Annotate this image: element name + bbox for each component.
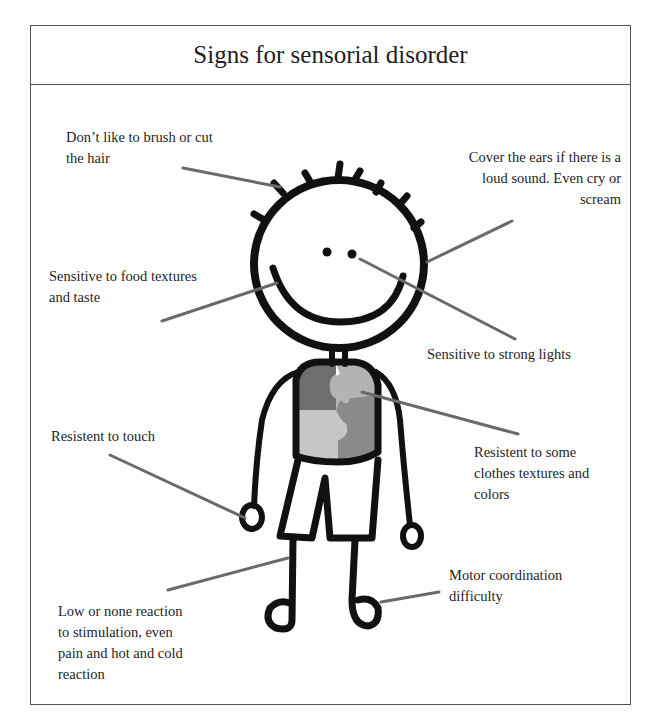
leader-line-hair bbox=[183, 168, 280, 187]
leader-line-ears bbox=[427, 221, 512, 262]
label-hair: Don’t like to brush or cut the hair bbox=[66, 127, 213, 169]
left-eye-icon bbox=[323, 248, 332, 257]
leader-line-clothes bbox=[362, 392, 518, 434]
leader-line-stimulation bbox=[168, 558, 288, 590]
hair-icon bbox=[254, 164, 421, 228]
puzzle-shirt bbox=[296, 364, 376, 460]
label-food: Sensitive to food textures and taste bbox=[49, 266, 197, 308]
leader-line-motor bbox=[381, 592, 439, 602]
leader-line-lights bbox=[360, 259, 515, 339]
right-leg-icon bbox=[352, 540, 378, 626]
right-eye-icon bbox=[348, 250, 357, 259]
shorts-icon bbox=[280, 460, 378, 538]
leader-line-touch bbox=[110, 455, 245, 518]
left-leg-icon bbox=[268, 540, 293, 629]
label-clothes: Resistent to some clothes textures and c… bbox=[474, 442, 589, 505]
label-lights: Sensitive to strong lights bbox=[427, 344, 571, 365]
label-ears: Cover the ears if there is a loud sound.… bbox=[469, 147, 621, 210]
label-stimulation: Low or none reaction to stimulation, eve… bbox=[58, 601, 183, 685]
label-motor: Motor coordination difficulty bbox=[449, 565, 562, 607]
right-hand-icon bbox=[403, 525, 421, 547]
label-touch: Resistent to touch bbox=[51, 426, 155, 447]
smile-icon bbox=[273, 268, 403, 322]
